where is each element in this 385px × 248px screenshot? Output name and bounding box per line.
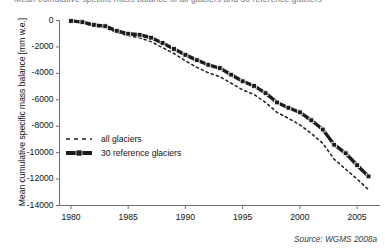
legend-label-reference-glaciers: 30 reference glaciers xyxy=(101,148,181,158)
series-marker xyxy=(263,91,268,96)
y-tick-label: -6000 xyxy=(8,94,54,104)
chart-axes xyxy=(56,21,380,210)
series-marker xyxy=(206,62,211,67)
y-tick-label: -2000 xyxy=(8,41,54,51)
series-marker xyxy=(160,41,165,46)
series-marker xyxy=(332,142,337,147)
series-marker xyxy=(252,84,257,89)
series-marker xyxy=(126,31,131,36)
legend-label-all-glaciers: all glaciers xyxy=(101,134,142,144)
series-marker xyxy=(103,24,108,29)
y-tick-label: 0 xyxy=(8,15,54,25)
y-tick-label: -4000 xyxy=(8,67,54,77)
chart-series-layer xyxy=(69,19,371,190)
series-marker xyxy=(343,151,348,156)
series-line-all-glaciers xyxy=(71,21,369,189)
series-marker xyxy=(137,32,142,37)
series-marker xyxy=(217,66,222,71)
source-note: Source: WGMS 2008a xyxy=(294,234,377,244)
dashed-line-key xyxy=(64,134,94,144)
x-tick-label: 2000 xyxy=(280,212,320,222)
chart-legend: all glaciers 30 reference glaciers xyxy=(64,132,181,160)
series-marker xyxy=(69,19,74,24)
series-marker xyxy=(240,79,245,84)
series-marker xyxy=(309,118,314,123)
y-tick-label: -14000 xyxy=(8,200,54,210)
series-marker xyxy=(297,110,302,115)
series-marker xyxy=(320,127,325,132)
series-marker xyxy=(91,22,96,27)
series-marker xyxy=(80,20,85,25)
series-marker xyxy=(114,28,119,33)
x-tick-label: 1985 xyxy=(108,212,148,222)
series-marker xyxy=(229,72,234,77)
x-tick-label: 2005 xyxy=(337,212,377,222)
y-tick-label: -12000 xyxy=(8,173,54,183)
figure-container: Mean cumulative specific mass balance of… xyxy=(0,0,385,248)
y-tick-label: -8000 xyxy=(8,120,54,130)
series-marker xyxy=(183,52,188,57)
x-tick-label: 1980 xyxy=(51,212,91,222)
series-marker xyxy=(194,58,199,63)
x-tick-label: 1990 xyxy=(165,212,205,222)
series-marker xyxy=(366,174,371,179)
series-marker xyxy=(275,100,280,105)
legend-item-reference-glaciers: 30 reference glaciers xyxy=(64,146,181,160)
solid-line-key xyxy=(64,148,94,158)
legend-item-all-glaciers: all glaciers xyxy=(64,132,181,146)
series-marker xyxy=(286,105,291,110)
y-tick-label: -10000 xyxy=(8,147,54,157)
series-marker xyxy=(149,35,154,40)
series-marker xyxy=(172,47,177,52)
x-tick-label: 1995 xyxy=(223,212,263,222)
series-marker xyxy=(355,163,360,168)
